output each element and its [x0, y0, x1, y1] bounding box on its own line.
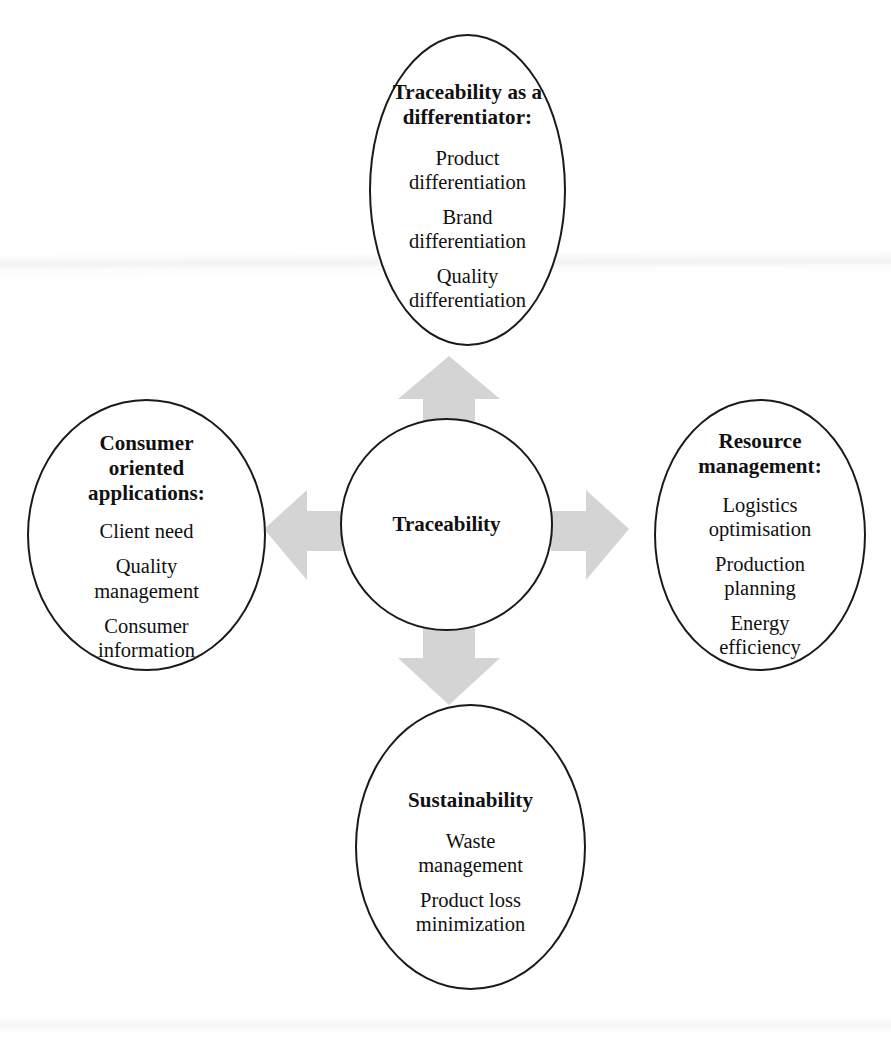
node-consumer-oriented-applications[interactable]: Consumer oriented applications: Client n… — [27, 399, 266, 671]
scan-fold-artifact-bottom — [0, 1014, 891, 1034]
hub-label: Traceability — [392, 512, 500, 537]
node-bottom-item-2: Product loss minimization — [416, 888, 525, 936]
node-right-item-2: Production planning — [715, 552, 805, 600]
node-top-title: Traceability as a differentiator: — [393, 80, 542, 130]
node-left-item-1: Client need — [100, 519, 194, 543]
node-right-item-3: Energy efficiency — [719, 611, 801, 659]
arrow-up-icon — [397, 355, 501, 421]
node-right-item-1: Logistics optimisation — [709, 493, 812, 541]
node-traceability-differentiator[interactable]: Traceability as a differentiator: Produc… — [369, 34, 566, 346]
node-right-title: Resource management: — [698, 429, 822, 479]
hub-traceability[interactable]: Traceability — [340, 418, 553, 631]
node-resource-management[interactable]: Resource management: Logistics optimisat… — [654, 399, 866, 671]
node-sustainability[interactable]: Sustainability Waste management Product … — [355, 704, 586, 990]
arrow-left-icon — [263, 489, 343, 581]
node-top-item-2: Brand differentiation — [409, 205, 526, 253]
node-left-item-2: Quality management — [94, 554, 199, 602]
node-left-item-3: Consumer information — [98, 614, 195, 662]
arrow-right-icon — [550, 489, 630, 581]
node-top-item-1: Product differentiation — [409, 146, 526, 194]
diagram-canvas: Traceability as a differentiator: Produc… — [0, 0, 891, 1040]
node-top-item-3: Quality differentiation — [409, 264, 526, 312]
node-bottom-title: Sustainability — [408, 788, 533, 813]
node-left-title: Consumer oriented applications: — [88, 431, 205, 505]
node-bottom-item-1: Waste management — [418, 829, 523, 877]
arrow-down-icon — [397, 628, 501, 706]
